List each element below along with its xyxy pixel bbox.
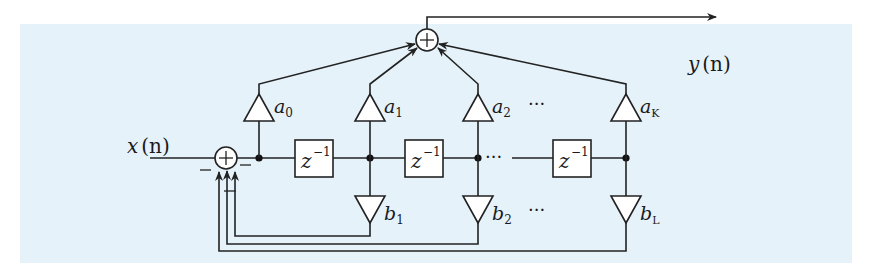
input-arg: (n) xyxy=(141,134,170,158)
output-adder xyxy=(416,29,438,51)
delay-z: z xyxy=(300,149,312,173)
svg-text:y(n): y(n) xyxy=(687,52,731,76)
delay-block-2: z −1 xyxy=(405,140,443,177)
filter-block-diagram: x(n) ··· z −1 z −1 z −1 xyxy=(0,0,871,279)
delay-exp: −1 xyxy=(571,145,589,159)
delay-exp: −1 xyxy=(313,145,331,159)
delay-block-1: z −1 xyxy=(295,140,333,177)
feedforward-ellipsis: ··· xyxy=(528,93,545,114)
input-label: x xyxy=(127,134,138,158)
delay-exp: −1 xyxy=(423,145,441,159)
svg-text:x(n): x(n) xyxy=(127,134,170,158)
output-label: y xyxy=(687,52,700,76)
output-arg: (n) xyxy=(702,52,731,76)
delay-block-L: z −1 xyxy=(553,140,591,177)
delay-z: z xyxy=(558,149,570,173)
feedback-ellipsis: ··· xyxy=(528,199,545,220)
delay-z: z xyxy=(410,149,422,173)
delay-ellipsis: ··· xyxy=(485,146,502,167)
